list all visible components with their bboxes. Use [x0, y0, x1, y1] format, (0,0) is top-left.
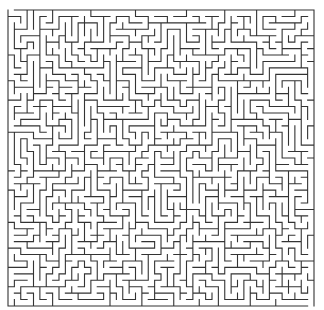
maze — [0, 0, 324, 310]
maze-canvas — [0, 0, 324, 310]
